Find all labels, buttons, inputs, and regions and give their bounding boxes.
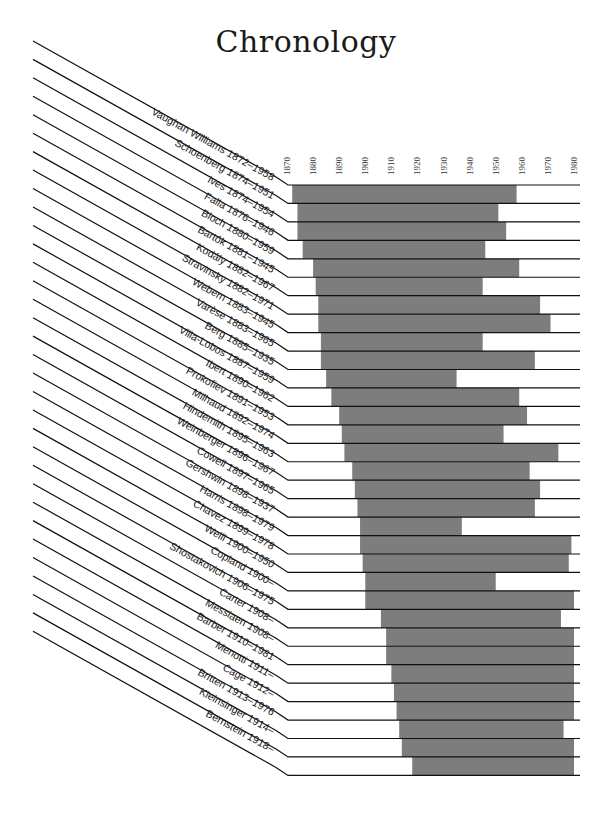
lifespan-bar: [339, 406, 527, 424]
year-tick-label: 1870: [282, 157, 292, 176]
chronology-chart: Vaughan Williams 1872–1958Schoenberg 187…: [0, 0, 612, 822]
lifespan-bar: [381, 609, 561, 627]
lifespan-bar: [318, 314, 550, 332]
year-axis: 1870188018901900191019201930194019501960…: [282, 156, 579, 175]
lifespan-bar: [331, 388, 519, 406]
year-tick-label: 1910: [386, 157, 396, 176]
year-tick-label: 1930: [439, 157, 449, 176]
year-tick-label: 1970: [543, 157, 553, 176]
lifespan-bar: [321, 351, 535, 369]
lifespan-bar: [365, 591, 574, 609]
composer-label: Vaughan Williams 1872–1958: [150, 105, 277, 183]
lifespan-bar: [363, 554, 569, 572]
lifespan-bar: [357, 499, 534, 517]
lifespan-bar: [313, 259, 519, 277]
lifespan-bar: [386, 646, 574, 664]
row-divider-line: [33, 262, 580, 406]
lifespan-bar: [397, 702, 574, 720]
lifespan-bar: [297, 203, 498, 221]
lifespan-bar: [394, 683, 574, 701]
lifespan-bar: [318, 296, 540, 314]
lifespan-bar: [292, 185, 516, 203]
lifespan-bar: [391, 665, 574, 683]
year-tick-label: 1900: [360, 157, 370, 176]
year-tick-label: 1880: [308, 157, 318, 176]
lifespan-bar: [321, 333, 483, 351]
lifespan-bar: [344, 443, 558, 461]
lifespan-bar: [360, 517, 462, 535]
year-tick-label: 1890: [334, 157, 344, 176]
year-tick-label: 1960: [517, 157, 527, 176]
lifespan-bar: [386, 628, 574, 646]
lifespan-bar: [297, 222, 506, 240]
composer-labels: Vaughan Williams 1872–1958Schoenberg 187…: [150, 105, 277, 755]
lifespan-bar: [399, 720, 563, 738]
lifespan-bar: [342, 425, 504, 443]
lifespan-bar: [360, 536, 571, 554]
year-tick-label: 1920: [412, 157, 422, 176]
year-tick-label: 1980: [569, 157, 579, 176]
year-tick-label: 1940: [465, 157, 475, 176]
row-divider-line: [33, 59, 580, 203]
lifespan-bar: [355, 480, 540, 498]
lifespan-bar: [412, 757, 574, 775]
lifespan-bar: [316, 277, 483, 295]
lifespan-bar: [303, 240, 486, 258]
lifespan-bar: [365, 572, 495, 590]
lifespan-bar: [326, 370, 456, 388]
lifespan-bar: [352, 462, 529, 480]
year-tick-label: 1950: [491, 156, 501, 175]
lifespan-bar: [402, 739, 574, 757]
